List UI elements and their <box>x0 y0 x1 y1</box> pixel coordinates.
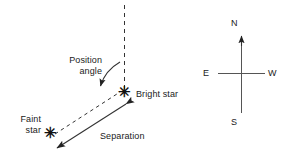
position-angle-curved-arrow <box>101 62 121 86</box>
position-angle-label-line2: angle <box>45 66 102 77</box>
compass-west-label: W <box>268 69 281 78</box>
position-angle-label-line1: Position <box>45 55 102 66</box>
faint-star-label-line1: Faint <box>0 114 41 125</box>
faint-to-bright-dashed-line <box>55 92 120 134</box>
faint-star-label: Faint star <box>0 114 41 136</box>
position-angle-label: Position angle <box>45 55 102 77</box>
faint-star-glyph: ✳ <box>44 126 57 141</box>
bright-star-glyph: ✳ <box>118 85 131 100</box>
compass-east-label: E <box>203 69 215 78</box>
star-separation-diagram: Position angle ✳ Bright star ✳ Faint sta… <box>0 0 294 164</box>
bright-star-label: Bright star <box>136 89 178 100</box>
compass-south-label: S <box>231 118 252 127</box>
separation-label: Separation <box>100 131 145 142</box>
compass-north-label: N <box>231 19 252 28</box>
faint-star-label-line2: star <box>0 125 41 136</box>
